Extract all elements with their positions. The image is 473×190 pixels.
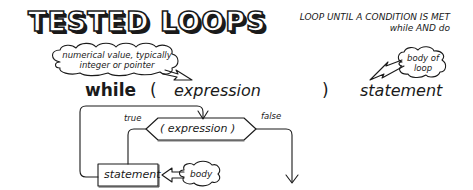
body-note-line1: body of	[402, 53, 444, 63]
syntax-keyword: while	[85, 80, 136, 100]
syntax-open-paren: (	[150, 80, 157, 100]
false-branch-line	[256, 129, 292, 182]
page-title: TESTED LOOPS	[28, 6, 266, 37]
statement-box: statement	[104, 168, 161, 181]
condition-label: ( expression )	[160, 122, 235, 135]
header-subtitle: LOOP UNTIL A CONDITION IS MET	[300, 12, 450, 22]
expression-note-arrow	[163, 70, 192, 80]
false-label: false	[261, 111, 281, 121]
true-label: true	[124, 113, 141, 123]
body-note: body of loop	[402, 53, 444, 73]
true-branch-line	[128, 129, 146, 164]
body-note-line2: loop	[402, 63, 444, 73]
syntax-expression: expression	[174, 81, 261, 100]
syntax-statement: statement	[360, 81, 442, 100]
body-label: body	[190, 169, 212, 179]
header-keywords: while AND do	[390, 23, 450, 33]
expression-note-line2: integer or pointer	[62, 60, 172, 70]
syntax-close-paren: )	[322, 80, 329, 100]
expression-note: numerical value, typically integer or po…	[62, 50, 172, 70]
expression-note-line1: numerical value, typically	[62, 50, 172, 60]
